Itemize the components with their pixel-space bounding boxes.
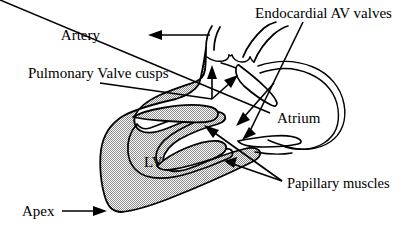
label-papillary-muscles: Papillary muscles xyxy=(287,175,390,191)
second-outflow-vessel xyxy=(232,22,288,62)
label-artery: Artery xyxy=(61,27,101,43)
label-lv: LV xyxy=(144,154,163,170)
label-pulmonary-valve-cusps: Pulmonary Valve cusps xyxy=(28,65,169,81)
label-apex: Apex xyxy=(22,203,55,219)
artery-leader xyxy=(148,30,210,40)
heart-diagram-svg: Artery Pulmonary Valve cusps Endocardial… xyxy=(0,0,418,230)
apex-leader xyxy=(62,206,107,216)
label-endocardial-av-valves: Endocardial AV valves xyxy=(255,5,392,21)
chamber-border-lines xyxy=(221,55,292,154)
heart-diagram: Artery Pulmonary Valve cusps Endocardial… xyxy=(0,0,418,230)
label-atrium: Atrium xyxy=(277,110,321,126)
artery-outflow-vessel xyxy=(206,26,229,61)
